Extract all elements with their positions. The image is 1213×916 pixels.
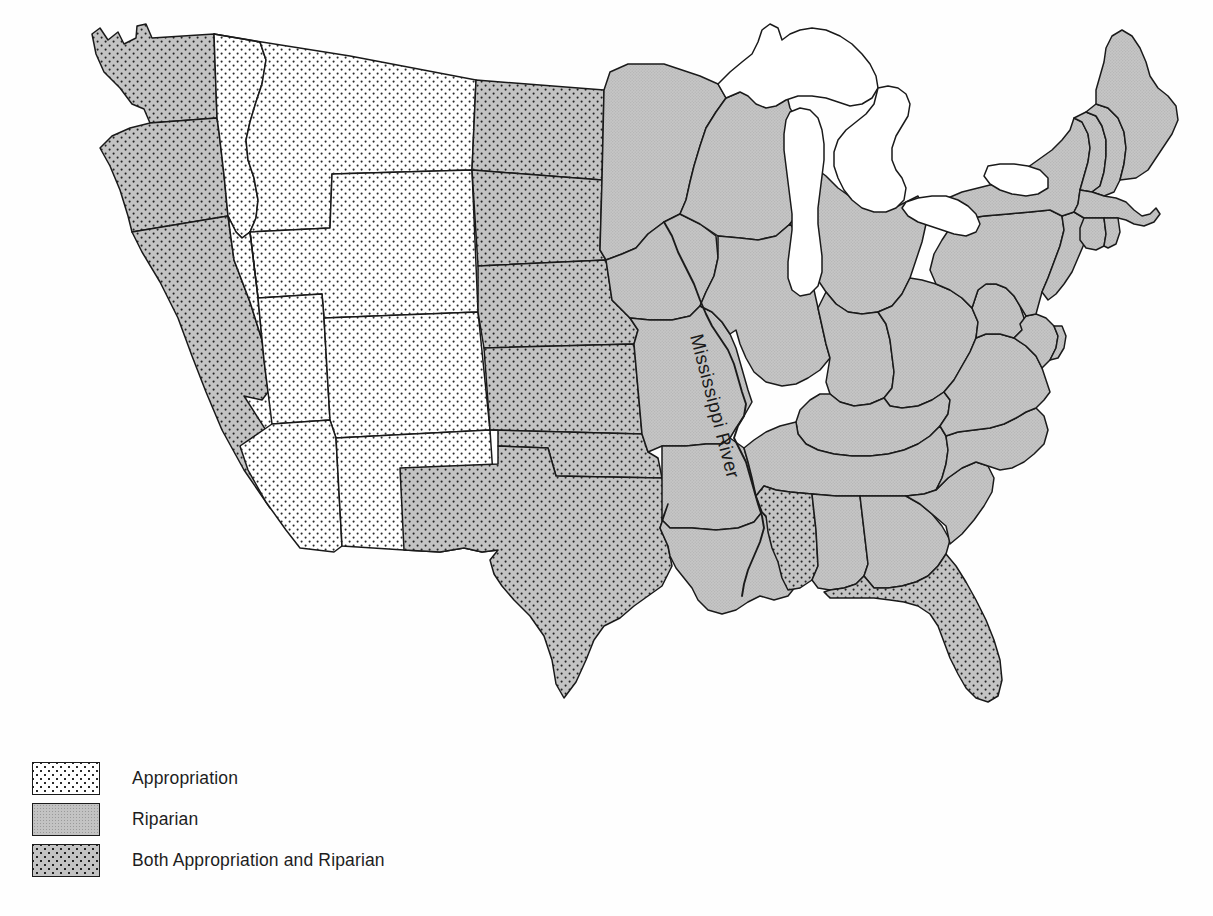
legend-row-riparian: Riparian	[32, 799, 632, 840]
state-washington[interactable]	[92, 24, 217, 123]
state-north-dakota[interactable]	[472, 80, 604, 180]
lake-michigan	[784, 108, 824, 296]
state-rhode-island[interactable]	[1104, 218, 1120, 248]
legend-row-appropriation: Appropriation	[32, 758, 632, 799]
legend-label-both: Both Appropriation and Riparian	[132, 850, 385, 871]
legend-row-both: Both Appropriation and Riparian	[32, 840, 632, 881]
state-texas[interactable]	[400, 446, 672, 698]
state-kansas[interactable]	[484, 344, 642, 434]
legend-swatch-appropriation	[32, 762, 100, 795]
legend-label-riparian: Riparian	[132, 809, 198, 830]
state-colorado[interactable]	[324, 312, 490, 438]
legend-swatch-both	[32, 844, 100, 877]
state-south-dakota[interactable]	[472, 170, 606, 266]
united-states-map: Mississippi River	[0, 0, 1213, 740]
state-oregon[interactable]	[100, 118, 228, 232]
state-alabama[interactable]	[812, 494, 868, 590]
map-legend: Appropriation Riparian Both Appropriatio…	[32, 758, 632, 881]
state-connecticut[interactable]	[1080, 218, 1106, 250]
states-layer	[92, 24, 1178, 702]
water-law-map-figure: Mississippi River Appropriation Riparian…	[0, 0, 1213, 916]
legend-swatch-riparian	[32, 803, 100, 836]
legend-label-appropriation: Appropriation	[132, 768, 238, 789]
